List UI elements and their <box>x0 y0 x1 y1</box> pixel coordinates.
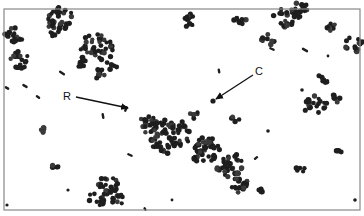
single-coccus <box>327 55 330 58</box>
label-coccus: C <box>255 66 263 77</box>
bacteria-micrograph <box>0 0 364 216</box>
single-coccus <box>210 98 215 103</box>
single-coccus <box>266 129 270 133</box>
single-coccus <box>353 198 357 202</box>
single-coccus <box>300 88 304 92</box>
single-coccus <box>66 188 69 191</box>
single-coccus <box>171 199 174 202</box>
label-rod: R <box>63 91 71 102</box>
single-coccus <box>5 203 8 206</box>
